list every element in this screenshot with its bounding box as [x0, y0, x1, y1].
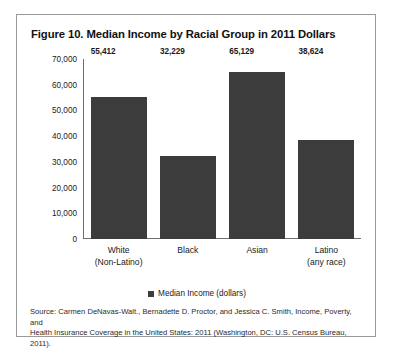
bar-slot: 65,129 — [229, 59, 285, 239]
y-axis: 70,00060,00050,00040,00030,00020,00010,0… — [31, 59, 83, 239]
x-axis-label-main: Latino — [315, 245, 338, 255]
bar-series: 55,41232,22965,12938,624 — [84, 59, 361, 239]
x-axis-label: White(Non-Latino) — [91, 245, 147, 268]
figure-container: Figure 10. Median Income by Racial Group… — [16, 14, 376, 337]
bar-value-label: 32,229 — [160, 47, 185, 56]
figure-title: Figure 10. Median Income by Racial Group… — [31, 28, 336, 40]
bar: 65,129 — [229, 72, 285, 239]
x-axis: White(Non-Latino)BlackAsianLatino(any ra… — [84, 245, 361, 268]
x-axis-label: Asian — [229, 245, 285, 268]
bar-value-label: 65,129 — [229, 47, 254, 56]
bar-slot: 55,412 — [91, 59, 147, 239]
x-axis-label-sub: (Non-Latino) — [91, 257, 147, 269]
source-note-line-2: Health Insurance Coverage in the United … — [30, 328, 366, 349]
bar: 55,412 — [91, 97, 147, 239]
y-axis-tick: 0 — [72, 235, 77, 244]
x-axis-label: Latino(any race) — [298, 245, 354, 268]
bar-slot: 38,624 — [298, 59, 354, 239]
x-axis-label-main: Black — [177, 245, 198, 255]
source-note: Source: Carmen DeNavas-Walt., Bernadette… — [30, 307, 366, 349]
bar-value-label: 38,624 — [298, 47, 323, 56]
source-note-line-1: Source: Carmen DeNavas-Walt., Bernadette… — [30, 307, 366, 328]
chart-plot-area: 70,00060,00050,00040,00030,00020,00010,0… — [31, 59, 363, 259]
x-axis-label-sub: (any race) — [298, 257, 354, 269]
bar: 32,229 — [160, 156, 216, 239]
y-axis-tick: 70,000 — [52, 55, 77, 64]
y-axis-tick: 10,000 — [52, 209, 77, 218]
legend-swatch-icon — [148, 291, 154, 297]
x-axis-label: Black — [160, 245, 216, 268]
x-axis-label-main: White — [108, 245, 130, 255]
y-axis-tick: 50,000 — [52, 106, 77, 115]
y-axis-tick: 40,000 — [52, 132, 77, 141]
x-axis-label-main: Asian — [246, 245, 268, 255]
y-axis-tick: 20,000 — [52, 183, 77, 192]
y-axis-tick: 30,000 — [52, 157, 77, 166]
bar-slot: 32,229 — [160, 59, 216, 239]
bar: 38,624 — [298, 140, 354, 239]
bar-value-label: 55,412 — [91, 47, 116, 56]
y-axis-tick: 60,000 — [52, 80, 77, 89]
legend-label: Median Income (dollars) — [158, 289, 246, 298]
chart-legend: Median Income (dollars) — [31, 289, 363, 298]
